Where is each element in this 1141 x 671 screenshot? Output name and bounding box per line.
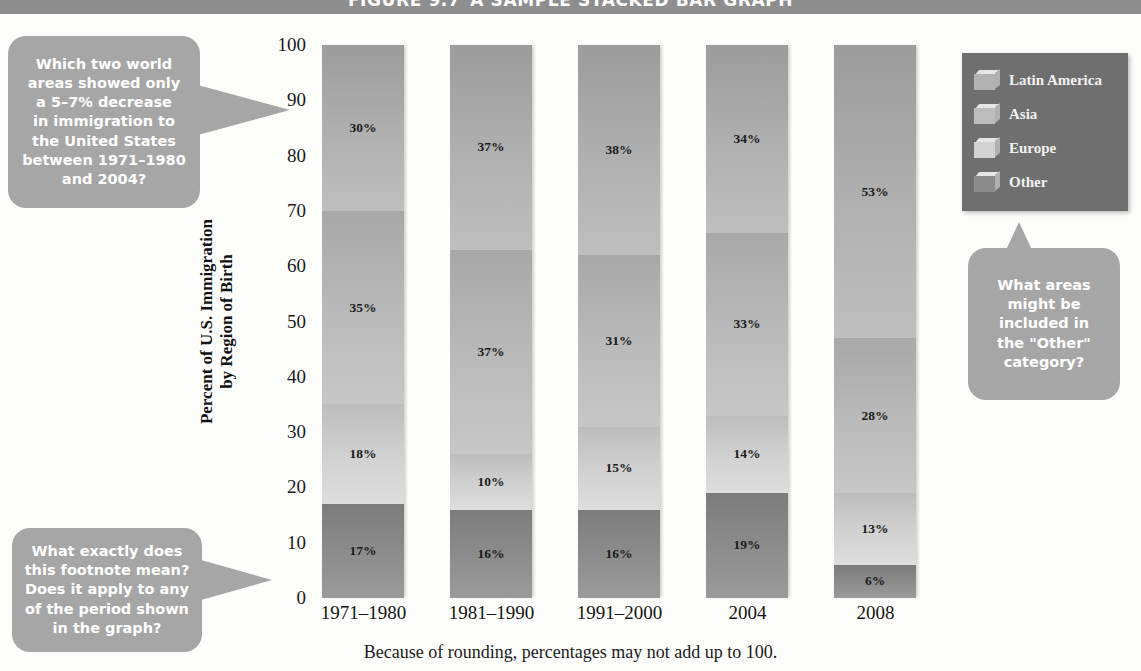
bar-segment-label: 6% bbox=[865, 573, 885, 589]
stacked-bar: 16%10%37%37% bbox=[450, 45, 532, 598]
y-axis-tick-label: 10 bbox=[248, 532, 306, 554]
bar-segment: 28% bbox=[834, 338, 916, 493]
legend-swatch-cube-icon bbox=[974, 172, 1000, 192]
bar-segment-label: 28% bbox=[862, 408, 889, 424]
callout-line: in the graph? bbox=[24, 619, 190, 638]
bar-segment: 53% bbox=[834, 45, 916, 338]
figure-number: FIGURE 9.7 bbox=[348, 0, 460, 10]
y-axis-tick-label: 20 bbox=[248, 476, 306, 498]
legend-item-label: Asia bbox=[1009, 106, 1037, 123]
stacked-bar: 19%14%33%34% bbox=[706, 45, 788, 598]
callout-line: the United States bbox=[20, 132, 188, 151]
bar-segment-label: 31% bbox=[606, 333, 633, 349]
bar-segment: 10% bbox=[450, 454, 532, 509]
plot-area: 17%18%35%30%16%10%37%37%16%15%31%38%19%1… bbox=[322, 45, 942, 598]
callout-line: included in bbox=[980, 314, 1108, 333]
callout-tail-icon bbox=[194, 84, 290, 136]
bar-segment: 13% bbox=[834, 493, 916, 565]
legend-swatch-cube-icon bbox=[974, 70, 1000, 90]
callout-line: Which two world bbox=[20, 55, 188, 74]
legend-item: Asia bbox=[962, 97, 1128, 131]
bar-segment-label: 15% bbox=[606, 460, 633, 476]
callout-tail-icon bbox=[1006, 222, 1032, 250]
stacked-bar: 17%18%35%30% bbox=[322, 45, 404, 598]
bar-segment-label: 10% bbox=[478, 474, 505, 490]
bar-segment-label: 38% bbox=[606, 142, 633, 158]
callout-tail-icon bbox=[194, 558, 272, 602]
x-axis-tick-label: 1981–1990 bbox=[429, 602, 554, 624]
bar-segment: 35% bbox=[322, 211, 404, 405]
callout-line: in immigration to bbox=[20, 112, 188, 131]
bar-segment: 16% bbox=[450, 510, 532, 598]
x-axis-tick-label: 2004 bbox=[685, 602, 810, 624]
x-axis-tick-label: 1991–2000 bbox=[557, 602, 682, 624]
y-axis-title-line-1: Percent of U.S. Immigration bbox=[197, 219, 217, 424]
bar-segment-label: 35% bbox=[350, 300, 377, 316]
callout-line: and 2004? bbox=[20, 170, 188, 189]
callout-line: of the period shown bbox=[24, 600, 190, 619]
bar-segment: 19% bbox=[706, 493, 788, 598]
y-axis-tick-label: 70 bbox=[248, 200, 306, 222]
y-axis-tick-label: 100 bbox=[248, 34, 306, 56]
callout-question-bottom: What exactly doesthis footnote mean?Does… bbox=[12, 528, 202, 652]
bar-segment: 17% bbox=[322, 504, 404, 598]
legend-item-label: Latin America bbox=[1009, 72, 1102, 89]
callout-line: What areas bbox=[980, 276, 1108, 295]
y-axis-tick-label: 40 bbox=[248, 366, 306, 388]
callout-line: Does it apply to any bbox=[24, 580, 190, 599]
y-axis-title-line-2: by Region of Birth bbox=[217, 219, 237, 424]
chart-legend: Latin AmericaAsiaEuropeOther bbox=[962, 53, 1128, 211]
figure-title: A SAMPLE STACKED BAR GRAPH bbox=[470, 0, 793, 10]
callout-line: this footnote mean? bbox=[24, 561, 190, 580]
callout-line: the "Other" bbox=[980, 334, 1108, 353]
y-axis-tick-label: 60 bbox=[248, 255, 306, 277]
bar-segment: 14% bbox=[706, 416, 788, 493]
callout-line: a 5–7% decrease bbox=[20, 93, 188, 112]
bar-segment-label: 53% bbox=[862, 184, 889, 200]
x-axis-tick-label: 1971–1980 bbox=[301, 602, 426, 624]
bar-segment: 38% bbox=[578, 45, 660, 255]
bar-segment-label: 14% bbox=[734, 446, 761, 462]
callout-right-text: What areasmight beincluded inthe "Other"… bbox=[980, 276, 1108, 372]
legend-item: Other bbox=[962, 165, 1128, 199]
legend-swatch-cube-icon bbox=[974, 138, 1000, 158]
callout-question-right: What areasmight beincluded inthe "Other"… bbox=[968, 248, 1120, 400]
bar-segment: 34% bbox=[706, 45, 788, 233]
bar-segment-label: 13% bbox=[862, 521, 889, 537]
callout-line: between 1971–1980 bbox=[20, 151, 188, 170]
callout-line: areas showed only bbox=[20, 74, 188, 93]
legend-item: Latin America bbox=[962, 63, 1128, 97]
x-axis-labels: 1971–19801981–19901991–200020042008 bbox=[322, 602, 942, 632]
callout-question-top: Which two worldareas showed onlya 5–7% d… bbox=[8, 36, 200, 208]
bar-segment: 37% bbox=[450, 250, 532, 455]
stacked-bar: 16%15%31%38% bbox=[578, 45, 660, 598]
callout-line: What exactly does bbox=[24, 542, 190, 561]
bar-segment: 15% bbox=[578, 427, 660, 510]
bar-segment: 16% bbox=[578, 510, 660, 598]
legend-item-label: Other bbox=[1009, 174, 1047, 191]
bar-segment-label: 37% bbox=[478, 139, 505, 155]
bar-segment: 33% bbox=[706, 233, 788, 415]
bar-segment-label: 18% bbox=[350, 446, 377, 462]
bar-segment: 31% bbox=[578, 255, 660, 426]
y-axis-tick-label: 30 bbox=[248, 421, 306, 443]
x-axis-tick-label: 2008 bbox=[813, 602, 938, 624]
bar-segment-label: 34% bbox=[734, 131, 761, 147]
bar-segment-label: 17% bbox=[350, 543, 377, 559]
legend-swatch-cube-icon bbox=[974, 104, 1000, 124]
callout-bottom-text: What exactly doesthis footnote mean?Does… bbox=[24, 542, 190, 638]
legend-item: Europe bbox=[962, 131, 1128, 165]
bar-segment-label: 19% bbox=[734, 537, 761, 553]
bar-segment-label: 16% bbox=[478, 546, 505, 562]
bar-segment: 30% bbox=[322, 45, 404, 211]
callout-line: might be bbox=[980, 295, 1108, 314]
bar-segment: 18% bbox=[322, 404, 404, 504]
figure-page: FIGURE 9.7A SAMPLE STACKED BAR GRAPH Per… bbox=[0, 0, 1141, 671]
bar-segment: 6% bbox=[834, 565, 916, 598]
legend-item-label: Europe bbox=[1009, 140, 1056, 157]
stacked-bar: 6%13%28%53% bbox=[834, 45, 916, 598]
bar-segment: 37% bbox=[450, 45, 532, 250]
callout-line: category? bbox=[980, 353, 1108, 372]
y-axis-tick-label: 50 bbox=[248, 311, 306, 333]
figure-title-bar: FIGURE 9.7A SAMPLE STACKED BAR GRAPH bbox=[0, 0, 1141, 14]
